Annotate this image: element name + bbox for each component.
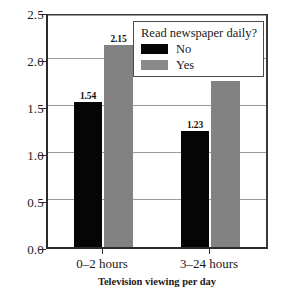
bar-no-3-24-hours [181, 131, 209, 247]
y-tick-mark-1 [39, 202, 46, 203]
x-axis-title: Television viewing per day [46, 276, 268, 287]
y-tick-label-0: 0.0 [4, 243, 44, 256]
legend-label-yes: Yes [176, 58, 194, 72]
x-tick-label-0-2-hours: 0–2 hours [47, 256, 157, 271]
y-tick-label-4: 2.0 [4, 55, 44, 68]
y-tick-label-1: 0.5 [4, 196, 44, 209]
bar-value-no-0-2-hours: 1.54 [67, 91, 109, 101]
legend-swatch-yes-icon [141, 60, 168, 70]
x-tick-mark-0 [102, 249, 103, 254]
x-tick-label-3-24-hours: 3–24 hours [154, 256, 264, 271]
x-tick-mark-1 [209, 249, 210, 254]
bar-yes-0-2-hours [104, 45, 133, 247]
y-tick-label-2: 1.0 [4, 149, 44, 162]
y-tick-mark-3 [39, 108, 46, 109]
bar-value-no-3-24-hours: 1.23 [174, 120, 216, 130]
y-tick-mark-4 [39, 61, 46, 62]
y-tick-mark-5 [39, 14, 46, 15]
legend-label-no: No [176, 42, 191, 56]
plot-area: 1.54 2.15 1.23 1.77 Read newspaper daily… [46, 14, 268, 249]
legend-entry-no: No [141, 41, 263, 57]
legend-title: Read newspaper daily? [141, 25, 263, 41]
legend-entry-yes: Yes [141, 57, 263, 73]
gridline-2.5 [48, 15, 266, 16]
y-tick-label-5: 2.5 [4, 8, 44, 21]
bar-no-0-2-hours [74, 102, 102, 247]
bar-yes-3-24-hours [211, 81, 240, 247]
y-tick-mark-2 [39, 155, 46, 156]
y-tick-mark-0 [39, 249, 46, 250]
legend: Read newspaper daily? No Yes [133, 21, 264, 77]
legend-swatch-no-icon [141, 44, 168, 54]
y-tick-label-3: 1.5 [4, 102, 44, 115]
bar-chart-figure: Group memberships 0.0 0.5 1.0 1.5 2.0 2.… [0, 0, 284, 298]
